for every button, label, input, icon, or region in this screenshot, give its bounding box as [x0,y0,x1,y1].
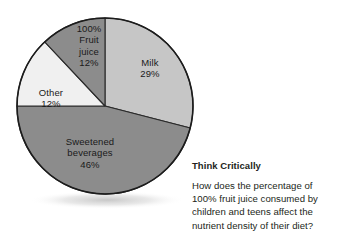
think-critically-question-line-4: nutrient density of their diet? [192,219,338,232]
think-critically-question: How does the percentage of 100% fruit ju… [192,179,338,232]
think-critically-block: Think Critically How does the percentage… [192,160,338,232]
pie-chart-svg [0,0,210,215]
pie-chart: Milk 29% 100% Fruit juice 12% Other 12% … [0,0,210,215]
think-critically-question-line-2: 100% fruit juice consumed by [192,192,338,205]
think-critically-heading: Think Critically [192,160,338,172]
think-critically-question-line-1: How does the percentage of [192,179,338,192]
pie-chart-figure: Milk 29% 100% Fruit juice 12% Other 12% … [0,0,339,241]
think-critically-question-line-3: children and teens affect the [192,205,338,218]
